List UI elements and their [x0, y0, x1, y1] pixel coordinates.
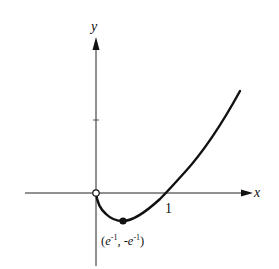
minimum-point-label: (e-1, -e-1)	[101, 233, 144, 248]
origin-open-point	[93, 190, 99, 196]
y-axis-arrow-icon	[93, 37, 100, 50]
x-axis-arrow-icon	[241, 190, 253, 197]
chart-canvas: y x 1 (e-1, -e-1)	[0, 0, 279, 269]
y-axis-label: y	[89, 19, 98, 34]
x-tick-label-1: 1	[165, 201, 172, 216]
x-axis-label: x	[253, 185, 261, 200]
minimum-point	[119, 217, 126, 224]
